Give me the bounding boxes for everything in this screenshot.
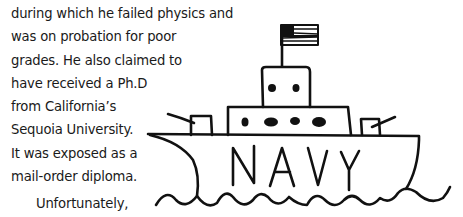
left-gun-turret — [168, 114, 212, 135]
deck-house — [228, 107, 351, 135]
hull — [148, 134, 419, 196]
navy-hull-text — [233, 146, 359, 190]
waves — [156, 187, 450, 205]
navy-ship-illustration — [0, 0, 463, 217]
upper-cabin — [262, 67, 310, 107]
right-gun-turret — [361, 117, 395, 135]
us-flag-icon — [281, 25, 318, 66]
